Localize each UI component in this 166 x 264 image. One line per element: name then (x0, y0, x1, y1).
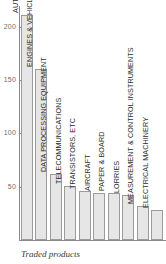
y-axis-tick-label: 50 (0, 183, 16, 190)
y-axis-tick-label: 200 (0, 23, 16, 30)
bar-label: AIRCRAFT (82, 154, 94, 191)
x-axis-caption: Traded products (21, 249, 80, 259)
bar (122, 195, 134, 240)
bar-label: ELECTRICAL MACHINERY (140, 117, 152, 208)
bar-label: TELECOMMUNICATIONS (53, 97, 65, 183)
bar (79, 191, 91, 240)
plot-area: AUTOMOBILESENGINES & VEHICLE PARTSDATA P… (20, 0, 166, 241)
bar (35, 69, 47, 240)
bar (64, 186, 76, 240)
bar-label: TRANSISTORS, ETC (67, 118, 79, 189)
bar (93, 193, 105, 240)
bar (151, 210, 163, 240)
bar-label: MEASUREMENT & CONTROL INSTRUMENTS (125, 47, 137, 204)
bar (50, 174, 62, 240)
bar-label: AUTOMOBILES (10, 0, 22, 13)
bar (108, 193, 120, 240)
y-axis-tick-label: 150 (0, 76, 16, 83)
bar (21, 15, 33, 240)
bar-chart: 20015010050 AUTOMOBILESENGINES & VEHICLE… (0, 0, 166, 264)
bar (137, 206, 149, 240)
y-axis-tick-label: 100 (0, 129, 16, 136)
x-axis-baseline (19, 240, 166, 241)
bar-label: LORRIES (111, 161, 123, 193)
bar-label: PAPER & BOARD (96, 132, 108, 191)
